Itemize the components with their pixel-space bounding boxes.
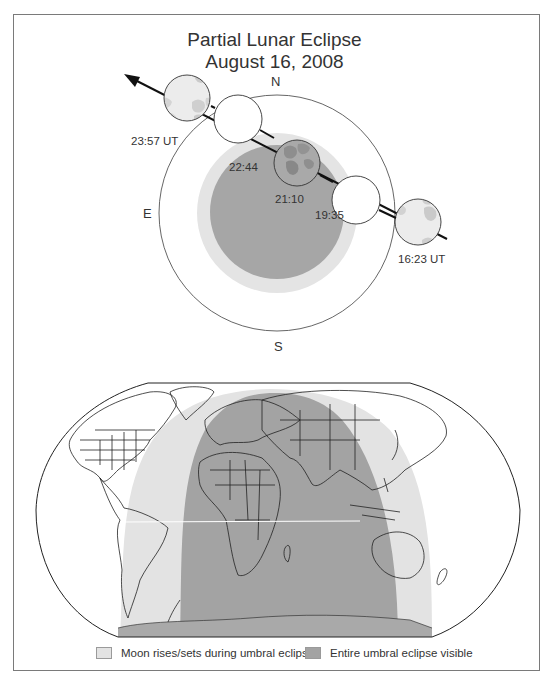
shadow-diagram: 23:57 UT 22:44 21:10 19:35 16:23 UT N E … — [124, 74, 447, 354]
moon-2357 — [164, 75, 210, 121]
direction-east: E — [143, 206, 152, 221]
direction-south: S — [274, 339, 283, 354]
arrow-head-icon — [124, 74, 140, 87]
legend-item-entire-visible: Entire umbral eclipse visible — [305, 645, 473, 661]
label-1935: 19:35 — [315, 209, 344, 221]
direction-north: N — [271, 74, 280, 89]
label-2110: 21:10 — [275, 193, 304, 205]
label-2244: 22:44 — [229, 161, 258, 173]
world-map — [36, 383, 520, 640]
eclipse-diagram: 23:57 UT 22:44 21:10 19:35 16:23 UT N E … — [0, 0, 549, 679]
legend-swatch-dark — [305, 647, 321, 659]
legend-label-rises-sets: Moon rises/sets during umbral eclipse — [121, 647, 314, 659]
label-1623: 16:23 UT — [398, 253, 445, 265]
moon-1623 — [395, 199, 441, 245]
label-2357: 23:57 UT — [131, 135, 178, 147]
moon-2110 — [274, 140, 320, 186]
legend-label-entire-visible: Entire umbral eclipse visible — [330, 647, 473, 659]
legend-item-rises-sets: Moon rises/sets during umbral eclipse — [96, 645, 314, 661]
moon-2244 — [214, 95, 262, 143]
legend-swatch-light — [96, 647, 112, 659]
